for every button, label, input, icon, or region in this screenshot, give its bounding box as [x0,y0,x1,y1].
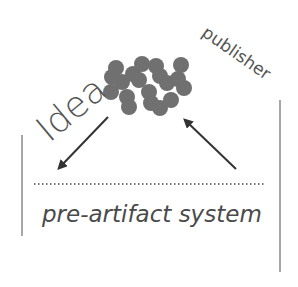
diagram-canvas [0,0,298,287]
system-label: pre-artifact system [42,201,262,227]
idea-cluster [103,56,192,116]
arrow-from-publisher [186,121,236,169]
